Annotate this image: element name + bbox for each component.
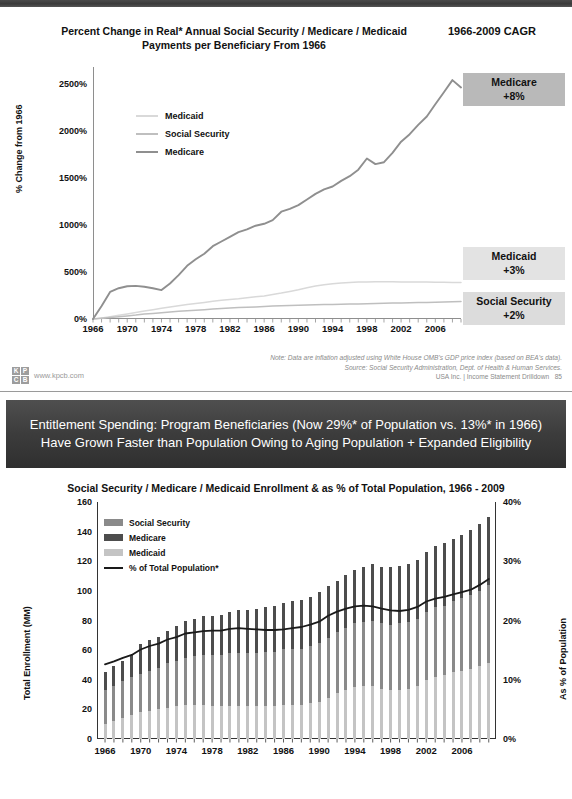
cagr-box-social-security: Social Security +2%: [463, 292, 565, 325]
slide1-ytick-5: 2500%: [31, 79, 87, 89]
slide1-ytick-2: 1000%: [31, 220, 87, 230]
cagr-box-social-security-name: Social Security: [463, 295, 565, 309]
legend-label-ss-bar: Social Security: [129, 518, 190, 528]
slide2-ytick-100: 100: [52, 586, 92, 596]
legend-label-medicaid-bar: Medicaid: [129, 548, 165, 558]
kpcb-footer[interactable]: K P C B www.kpcb.com: [12, 367, 84, 384]
slide1-xtick-1978: 1978: [185, 323, 206, 334]
legend-swatch-social-security-icon: [136, 133, 158, 135]
legend-item-medicaid-bar: Medicaid: [104, 545, 219, 560]
slide1-xtick-1970: 1970: [117, 323, 138, 334]
slide2-ytick-40: 40: [52, 675, 92, 685]
slide1-chart-title: Percent Change in Real* Annual Social Se…: [48, 24, 420, 52]
banner-headline: Entitlement Spending: Program Beneficiar…: [6, 416, 566, 452]
slide1-xtick-1990: 1990: [288, 323, 309, 334]
legend-swatch-medicare-bar-icon: [104, 534, 123, 541]
legend-label-social-security: Social Security: [165, 129, 230, 139]
slide1-xtick-1986: 1986: [254, 323, 275, 334]
slide2-ytick-80: 80: [52, 616, 92, 626]
slide2-xtick-1970: 1970: [130, 745, 151, 756]
slide1-y-axis-title: % Change from 1966: [14, 104, 24, 193]
slide1-xtick-2002: 2002: [391, 323, 412, 334]
slide1-page-number: 85: [555, 373, 562, 380]
slide1-footer-right: USA Inc. | Income Statement Drilldown: [436, 373, 550, 380]
slide2-rtick-10: 10%: [503, 675, 543, 685]
cagr-box-medicare-value: +8%: [463, 90, 565, 104]
legend-item-medicaid: Medicaid: [136, 107, 230, 125]
cagr-box-medicaid: Medicaid +3%: [463, 247, 565, 280]
legend-label-medicaid: Medicaid: [165, 111, 204, 121]
slide1-ytick-0: 0%: [31, 314, 87, 324]
kpcb-logo-letter-k: K: [12, 367, 20, 375]
slide-percent-change: Percent Change in Real* Annual Social Se…: [0, 7, 572, 392]
slide2-xtick-1966: 1966: [94, 745, 115, 756]
slide2-rtick-0: 0%: [503, 734, 543, 744]
slide1-xtick-1994: 1994: [322, 323, 343, 334]
slide1-ytick-1: 500%: [31, 267, 87, 277]
legend-item-ss-bar: Social Security: [104, 515, 219, 530]
slide2-ytick-120: 120: [52, 556, 92, 566]
kpcb-url-link[interactable]: www.kpcb.com: [34, 371, 84, 380]
slide2-xtick-2002: 2002: [416, 745, 437, 756]
kpcb-logo-letter-p: P: [21, 367, 29, 375]
slide2-xtick-2006: 2006: [451, 745, 472, 756]
slide2-ytick-0: 0: [52, 734, 92, 744]
cagr-column-header: 1966-2009 CAGR: [432, 24, 552, 39]
slide2-xtick-1982: 1982: [237, 745, 258, 756]
legend-label-pct-population: % of Total Population*: [129, 563, 219, 573]
legend-item-medicare-bar: Medicare: [104, 530, 219, 545]
section-banner: Entitlement Spending: Program Beneficiar…: [6, 400, 566, 468]
legend-swatch-pct-population-icon: [104, 567, 123, 569]
slide2-chart-title: Social Security / Medicare / Medicaid En…: [0, 482, 572, 494]
kpcb-logo-icon: K P C B: [12, 367, 29, 384]
slide2-rtick-30: 30%: [503, 556, 543, 566]
slide1-footnotes: Note: Data are inflation adjusted using …: [162, 353, 562, 382]
slide1-xtick-2006: 2006: [425, 323, 446, 334]
slide2-xtick-1978: 1978: [202, 745, 223, 756]
slide2-ytick-140: 140: [52, 527, 92, 537]
cagr-box-medicare: Medicare +8%: [463, 73, 565, 106]
legend-item-medicare: Medicare: [136, 143, 230, 161]
legend-item-social-security: Social Security: [136, 125, 230, 143]
slide2-right-axis-line: [495, 502, 496, 739]
slide2-xtick-1994: 1994: [344, 745, 365, 756]
slide1-plot-area: 0% 500% 1000% 1500% 2000% 2500%: [93, 67, 461, 319]
legend-label-medicare: Medicare: [165, 147, 204, 157]
previous-slide-sliver: [0, 0, 572, 7]
cagr-box-medicaid-value: +3%: [463, 264, 565, 278]
slide2-rtick-20: 20%: [503, 616, 543, 626]
slide1-note: Note: Data are inflation adjusted using …: [162, 353, 562, 363]
slide2-xtick-1986: 1986: [273, 745, 294, 756]
slide2-ytick-160: 160: [52, 497, 92, 507]
legend-swatch-social-security-bar-icon: [104, 519, 123, 526]
slide1-xtick-1982: 1982: [219, 323, 240, 334]
slide2-right-axis-title: As % of Population: [558, 618, 568, 700]
slide1-footer-right-line: USA Inc. | Income Statement Drilldown 85: [162, 372, 562, 382]
slide1-xtick-1998: 1998: [356, 323, 377, 334]
slide2-ytick-20: 20: [52, 704, 92, 714]
slide1-source: Source: Social Security Administration, …: [162, 363, 562, 373]
cagr-box-social-security-value: +2%: [463, 309, 565, 323]
slide2-legend: Social Security Medicare Medicaid % of T…: [104, 515, 219, 575]
cagr-box-medicare-name: Medicare: [463, 76, 565, 90]
legend-swatch-medicare-icon: [136, 151, 158, 154]
slide2-y-axis-title: Total Enrollment (MM): [22, 606, 32, 700]
slide2-ytick-60: 60: [52, 645, 92, 655]
slide2-xtick-1974: 1974: [166, 745, 187, 756]
slide1-series-svg: [93, 67, 461, 319]
legend-label-medicare-bar: Medicare: [129, 533, 166, 543]
legend-swatch-medicaid-bar-icon: [104, 549, 123, 556]
legend-item-pct-population: % of Total Population*: [104, 560, 219, 575]
slide1-ytick-3: 1500%: [31, 173, 87, 183]
slide1-xtick-1966: 1966: [82, 323, 103, 334]
slide1-ytick-4: 2000%: [31, 126, 87, 136]
kpcb-logo-letter-b: B: [21, 376, 29, 384]
slide1-xtick-1974: 1974: [151, 323, 172, 334]
cagr-box-medicaid-name: Medicaid: [463, 250, 565, 264]
slide-pair-page: Percent Change in Real* Annual Social Se…: [0, 0, 572, 799]
legend-swatch-medicaid-icon: [136, 115, 158, 117]
slide2-rtick-40: 40%: [503, 497, 543, 507]
slide2-xtick-1998: 1998: [380, 745, 401, 756]
slide2-xtick-1990: 1990: [309, 745, 330, 756]
slide1-legend: Medicaid Social Security Medicare: [136, 107, 230, 161]
